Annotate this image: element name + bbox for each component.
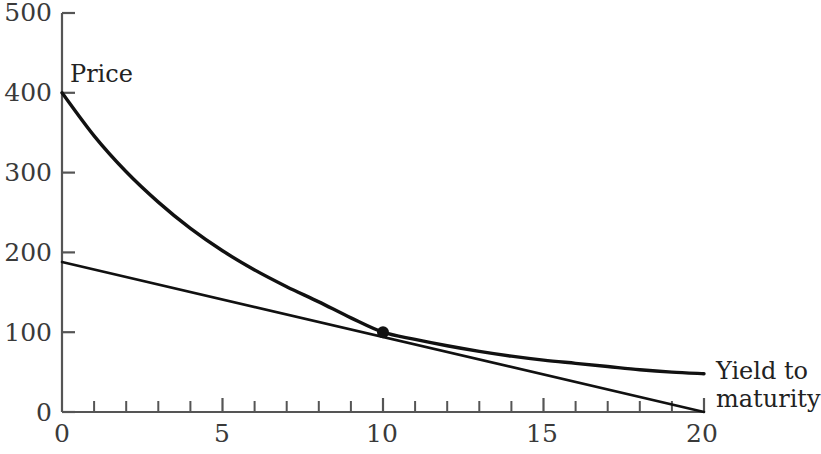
x-tick-label-0: 0 (42, 421, 82, 446)
x-axis-title-line1: Yield to (716, 357, 812, 385)
x-tick-label-15: 15 (522, 421, 562, 446)
axes-group (62, 13, 704, 412)
y-tick-label-300: 300 (0, 160, 52, 185)
y-axis-title: Price (70, 60, 133, 88)
tangency-point-marker (377, 326, 389, 338)
y-tick-label-500: 500 (0, 0, 52, 25)
x-tick-label-5: 5 (202, 421, 242, 446)
x-axis-title-line2: maturity (716, 385, 812, 413)
y-tick-label-400: 400 (0, 80, 52, 105)
x-axis-title: Yield to maturity (716, 357, 812, 414)
y-tick-label-100: 100 (0, 320, 52, 345)
x-axis-major-ticks (223, 398, 705, 412)
y-tick-label-200: 200 (0, 240, 52, 265)
x-tick-label-20: 20 (682, 421, 722, 446)
x-tick-label-10: 10 (362, 421, 402, 446)
